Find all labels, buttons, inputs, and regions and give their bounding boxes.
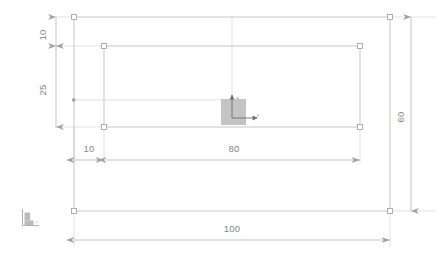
- center-block: [221, 99, 246, 125]
- origin-axis-icon: [23, 209, 40, 226]
- marker-outer-top-left: [72, 15, 77, 20]
- dim-total-width-horizontal: 100: [74, 223, 390, 240]
- dim-label-total-width: 100: [224, 223, 240, 234]
- technical-drawing-svg: 10 25 60 10 80 100: [0, 0, 446, 261]
- dim-label-top-offset: 10: [37, 30, 48, 41]
- marker-inner-bottom-left: [102, 125, 107, 130]
- marker-inner-top-right: [358, 44, 363, 49]
- marker-outer-bottom-left: [72, 209, 77, 214]
- marker-outer-left-mid: [72, 98, 75, 101]
- midpoint-markers: [72, 98, 75, 101]
- marker-inner-top-left: [102, 44, 107, 49]
- dim-total-height-vertical: 60: [395, 17, 411, 211]
- dim-left-offset-horizontal: 10: [74, 143, 104, 160]
- extension-lines: [55, 17, 436, 247]
- crosshair-y-arrow: [230, 95, 235, 100]
- dim-label-inner-width: 80: [229, 143, 240, 154]
- marker-outer-top-right: [388, 15, 393, 20]
- dim-label-total-height: 60: [395, 112, 406, 123]
- marker-inner-bottom-right: [358, 125, 363, 130]
- dim-top-offset-vertical: 10: [37, 17, 56, 46]
- origin-axis-x-bar: [25, 221, 34, 226]
- dim-inner-width-horizontal: 80: [106, 143, 360, 160]
- crosshair-x-arrow: [253, 116, 258, 121]
- drawing-canvas: 10 25 60 10 80 100: [0, 0, 446, 261]
- dim-label-left-offset: 10: [84, 143, 95, 154]
- origin-axis-y-bar: [25, 213, 31, 221]
- dim-inner-height-vertical: 25: [37, 46, 56, 127]
- marker-outer-bottom-right: [388, 209, 393, 214]
- dim-label-inner-height: 25: [37, 85, 48, 96]
